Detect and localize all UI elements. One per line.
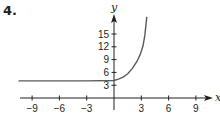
chart: xy−9−6−33693691215 [0, 0, 220, 130]
y-tick-label: 6 [103, 67, 109, 78]
x-tick-label: −6 [54, 103, 66, 114]
x-tick-label: 6 [166, 103, 172, 114]
y-tick-label: 15 [98, 29, 110, 40]
x-tick-label: 9 [193, 103, 199, 114]
x-tick-label: −3 [81, 103, 93, 114]
y-axis-label: y [110, 1, 118, 14]
y-tick-label: 3 [103, 80, 109, 91]
x-tick-label: 3 [139, 103, 145, 114]
y-tick-label: 9 [103, 54, 109, 65]
x-axis-label: x [215, 91, 220, 104]
y-tick-label: 12 [98, 41, 110, 52]
function-curve [19, 17, 147, 81]
x-tick-label: −9 [26, 103, 38, 114]
